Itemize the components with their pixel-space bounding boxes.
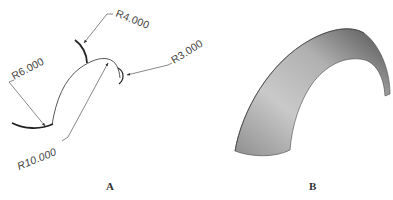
arc-r6 bbox=[12, 123, 53, 128]
dimension-r10-label: R10.000 bbox=[15, 145, 58, 172]
shaded-arch-solid bbox=[235, 29, 390, 156]
leader-r4 bbox=[84, 14, 113, 43]
arc-r4 bbox=[75, 40, 87, 63]
panel-a: R4.000 R3.000 R6.000 R10.000 A bbox=[9, 7, 205, 192]
leader-r10 bbox=[62, 63, 108, 141]
sweep-diagram: R4.000 R3.000 R6.000 R10.000 A B bbox=[0, 0, 393, 200]
leader-r6 bbox=[9, 80, 45, 126]
profile-curve bbox=[52, 58, 120, 125]
panel-a-label: A bbox=[106, 180, 114, 192]
leader-r3 bbox=[127, 63, 172, 75]
dimension-r3-label: R3.000 bbox=[169, 37, 205, 66]
panel-b: B bbox=[235, 29, 390, 192]
dimension-r4-label: R4.000 bbox=[114, 7, 151, 31]
panel-b-label: B bbox=[309, 180, 317, 192]
dimension-r6-label: R6.000 bbox=[9, 55, 46, 82]
